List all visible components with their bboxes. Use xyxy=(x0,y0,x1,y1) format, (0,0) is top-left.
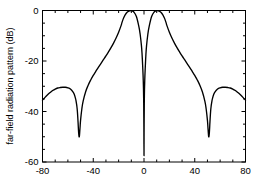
y-tick-label: -40 xyxy=(25,106,39,117)
x-tick-label: 0 xyxy=(141,165,146,176)
y-tick-label: 0 xyxy=(33,5,38,16)
y-axis-title: far-field radiation pattern (dB) xyxy=(5,27,15,144)
y-tick-label: -60 xyxy=(25,156,39,167)
x-tick-label: 80 xyxy=(240,165,251,176)
x-tick-label: 40 xyxy=(189,165,200,176)
x-tick-label: -40 xyxy=(86,165,100,176)
radiation-pattern-chart: -80-4004080 0-20-40-60 far-field radiati… xyxy=(0,0,256,190)
figure-container: -80-4004080 0-20-40-60 far-field radiati… xyxy=(0,0,256,190)
y-tick-label: -20 xyxy=(25,55,39,66)
